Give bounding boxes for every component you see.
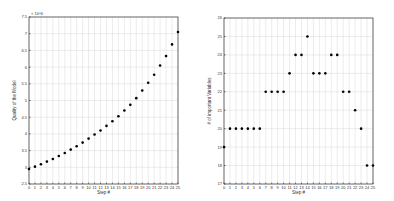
y-tick-label: 20 <box>218 126 223 131</box>
y-tick-label: 17 <box>218 181 223 186</box>
data-point <box>294 54 297 57</box>
y-tick-label: 3.5 <box>21 148 27 153</box>
x-tick-label: 14 <box>305 185 310 190</box>
data-point <box>141 89 144 92</box>
data-point <box>93 133 96 136</box>
data-point <box>241 127 244 130</box>
data-point <box>372 164 375 167</box>
x-tick-label: 18 <box>134 185 139 190</box>
data-point <box>366 164 369 167</box>
x-tick-label: 7 <box>70 185 73 190</box>
x-tick-label: 22 <box>158 185 163 190</box>
x-tick-label: 17 <box>323 185 328 190</box>
variables-chart-panel: 0123456789101112131415161718192021222324… <box>197 0 394 201</box>
x-tick-label: 18 <box>329 185 334 190</box>
x-tick-label: 1 <box>34 185 37 190</box>
x-tick-label: 6 <box>259 185 262 190</box>
x-tick-label: 7 <box>265 185 268 190</box>
data-point <box>253 127 256 130</box>
x-tick-label: 16 <box>317 185 322 190</box>
data-point <box>58 155 61 158</box>
y-tick-label: 7.5 <box>21 14 27 19</box>
y-tick-label: 6 <box>25 65 28 70</box>
y-tick-label: 5.5 <box>21 81 27 86</box>
data-point <box>63 152 66 155</box>
x-tick-label: 9 <box>82 185 85 190</box>
y-tick-label: 18 <box>218 163 223 168</box>
y-tick-label: 7 <box>25 31 28 36</box>
data-point <box>87 137 90 140</box>
data-point <box>177 31 180 34</box>
x-tick-label: 22 <box>353 185 358 190</box>
data-point <box>247 127 250 130</box>
data-point <box>123 109 126 112</box>
x-tick-label: 25 <box>371 185 376 190</box>
x-tick-label: 20 <box>146 185 151 190</box>
y-tick-label: 4.5 <box>21 115 27 120</box>
data-point <box>69 148 72 151</box>
x-tick-label: 19 <box>335 185 340 190</box>
x-tick-label: 4 <box>247 185 250 190</box>
data-point <box>40 163 43 166</box>
y-tick-label: 22 <box>218 89 223 94</box>
x-tick-label: 16 <box>122 185 127 190</box>
y-exponent-label: × 10^6 <box>31 11 44 16</box>
data-point <box>117 115 120 118</box>
y-tick-label: 24 <box>218 52 223 57</box>
y-tick-label: 23 <box>218 71 223 76</box>
x-tick-label: 23 <box>164 185 169 190</box>
data-point <box>229 127 232 130</box>
x-tick-label: 8 <box>271 185 274 190</box>
x-tick-label: 5 <box>253 185 256 190</box>
x-tick-label: 24 <box>170 185 175 190</box>
x-tick-label: 0 <box>28 185 31 190</box>
data-point <box>235 127 238 130</box>
data-point <box>306 35 309 38</box>
data-point <box>336 54 339 57</box>
x-tick-label: 10 <box>86 185 91 190</box>
data-point <box>99 129 102 132</box>
data-point <box>223 146 226 149</box>
x-tick-label: 3 <box>46 185 49 190</box>
y-tick-label: 21 <box>218 108 223 113</box>
data-point <box>159 64 162 67</box>
x-tick-label: 20 <box>341 185 346 190</box>
x-tick-label: 0 <box>223 185 226 190</box>
data-point <box>300 54 303 57</box>
y-axis-label: Quality of the Model <box>12 80 17 120</box>
quality-chart-panel: 0123456789101112131415161718192021222324… <box>0 0 197 201</box>
data-point <box>75 145 78 148</box>
data-point <box>282 90 285 93</box>
x-tick-label: 2 <box>40 185 43 190</box>
x-tick-label: 21 <box>347 185 352 190</box>
y-tick-label: 26 <box>218 15 223 20</box>
data-point <box>111 120 114 123</box>
data-point <box>129 104 132 107</box>
y-axis-label: # of important Variables <box>207 77 212 125</box>
x-tick-label: 14 <box>110 185 115 190</box>
y-tick-label: 6.5 <box>21 48 27 53</box>
data-point <box>81 141 84 144</box>
data-point <box>135 97 138 100</box>
x-axis-label: Step # <box>292 190 306 195</box>
data-point <box>312 72 315 75</box>
data-point <box>276 90 279 93</box>
x-tick-label: 19 <box>140 185 145 190</box>
x-axis-label: Step # <box>97 190 111 195</box>
y-tick-label: 4 <box>25 131 28 136</box>
data-point <box>348 90 351 93</box>
data-point <box>147 81 150 84</box>
x-tick-label: 15 <box>311 185 316 190</box>
data-point <box>318 72 321 75</box>
data-point <box>360 127 363 130</box>
y-tick-label: 25 <box>218 34 223 39</box>
quality-of-model-chart: 0123456789101112131415161718192021222324… <box>0 0 197 201</box>
data-point <box>258 127 261 130</box>
data-point <box>46 160 49 163</box>
data-point <box>34 165 37 168</box>
x-tick-label: 4 <box>52 185 55 190</box>
x-tick-label: 6 <box>64 185 67 190</box>
data-point <box>28 168 31 171</box>
x-tick-label: 1 <box>229 185 232 190</box>
data-point <box>354 109 357 112</box>
